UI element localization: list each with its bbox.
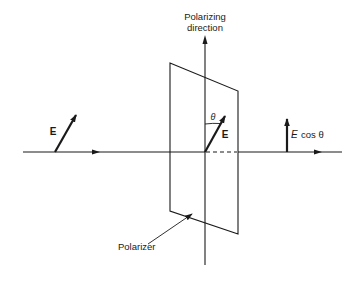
propagation-arrowhead-left [92, 150, 100, 155]
polarizing-direction-arrowhead [203, 35, 208, 44]
polarizer-label: Polarizer [118, 241, 156, 252]
polarizer-plane [170, 63, 238, 234]
polarizer-e-label: E [222, 129, 229, 140]
axis-title-line1: Polarizing [184, 11, 226, 22]
transmitted-cos-label: cos θ [301, 129, 324, 140]
theta-label: θ [211, 112, 216, 122]
incident-e-label: E [50, 126, 57, 137]
propagation-arrowhead-right [314, 150, 322, 155]
incident-e-vector [55, 115, 76, 152]
polarizer-diagram: Polarizing direction E E θ E cos θ Polar… [0, 0, 356, 281]
axis-title-line2: direction [187, 22, 223, 33]
polarizer-leader-line [148, 214, 192, 244]
theta-arc [205, 123, 220, 124]
transmitted-e-label: E [291, 129, 298, 140]
